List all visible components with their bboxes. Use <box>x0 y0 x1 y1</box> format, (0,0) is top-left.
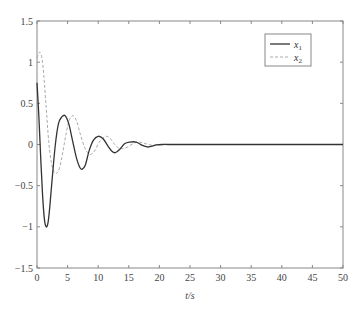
legend-box <box>265 34 311 66</box>
x-tick-label: 40 <box>277 272 287 283</box>
y-tick-label: 1.5 <box>21 16 34 27</box>
line-chart: 05101520253035404550 1.510.50−0.5−1−1.5 … <box>0 0 362 316</box>
legend: x1x2 <box>265 34 311 66</box>
x-tick-label: 25 <box>185 272 195 283</box>
y-tick-label: −1.5 <box>15 263 33 274</box>
series-layer <box>37 52 343 227</box>
series-x2-line <box>37 52 343 173</box>
x-tick-label: 35 <box>246 272 256 283</box>
y-tick-label: 0 <box>28 139 33 150</box>
x-tick-label: 50 <box>338 272 348 283</box>
y-tick-label: 0.5 <box>21 98 34 109</box>
x-tick-label: 0 <box>35 272 40 283</box>
y-tick-label: −0.5 <box>15 180 33 191</box>
y-tick-label: −1 <box>22 221 33 232</box>
x-tick-label: 5 <box>65 272 70 283</box>
x-tick-label: 15 <box>124 272 134 283</box>
x-tick-label: 10 <box>93 272 103 283</box>
y-tick-label: 1 <box>28 57 33 68</box>
series-x1-line <box>37 83 343 227</box>
x-tick-label: 45 <box>307 272 317 283</box>
x-axis-title: t/s <box>185 290 195 301</box>
x-tick-label: 30 <box>216 272 226 283</box>
x-tick-label: 20 <box>154 272 164 283</box>
